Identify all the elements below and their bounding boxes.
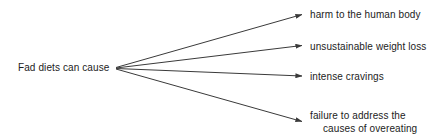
edge-arrow-to-unsustainable-weight-loss — [116, 46, 302, 69]
edge-arrow-to-harm-to-the-human-body — [116, 15, 302, 68]
target-node-label-2: unsustainable weight loss — [310, 40, 426, 53]
target-node-label-4-line-1: failure to address the — [310, 110, 406, 121]
target-node-label-4: failure to address the causes of overeat… — [310, 109, 417, 135]
target-node-label-3: intense cravings — [310, 70, 384, 83]
cause-effect-diagram: Fad diets can cause harm to the human bo… — [0, 0, 443, 138]
source-node-label: Fad diets can cause — [18, 61, 109, 74]
edge-arrow-to-failure-to-address-the-causes-of-overeating — [116, 69, 302, 122]
target-node-label-1: harm to the human body — [310, 8, 421, 21]
target-node-label-4-line-2: causes of overeating — [310, 122, 417, 135]
edge-arrow-to-intense-cravings — [116, 69, 302, 77]
